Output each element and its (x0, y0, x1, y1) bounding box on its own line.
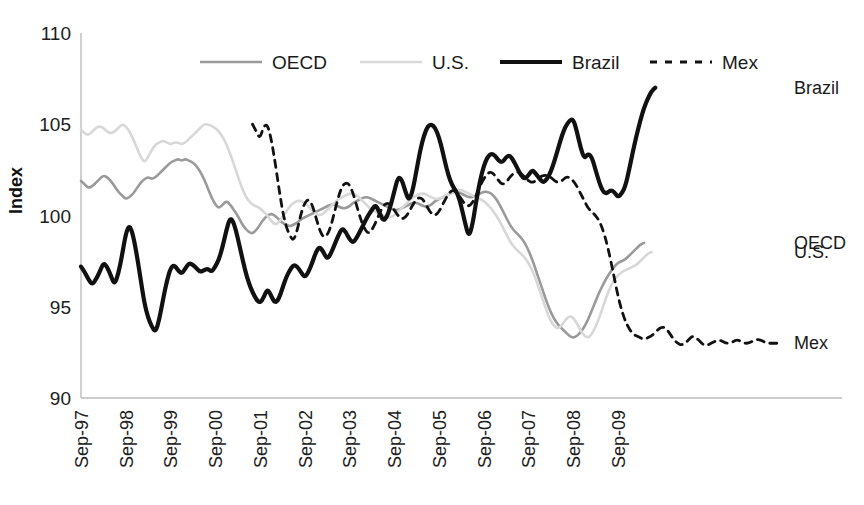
x-tick-label: Sep-06 (475, 410, 495, 468)
line-chart: 1101051009590 Sep-97Sep-98Sep-99Sep-00Se… (0, 0, 864, 505)
legend-label-oecd: OECD (272, 52, 327, 73)
series-line-oecd (81, 159, 644, 337)
x-tick-label: Sep-02 (296, 410, 316, 468)
x-tick-label: Sep-01 (251, 410, 271, 468)
end-label-us: U.S. (794, 242, 829, 262)
x-tick-label: Sep-99 (161, 410, 181, 468)
chart-legend: OECDU.S.BrazilMex (200, 52, 758, 73)
x-tick-label: Sep-07 (519, 410, 539, 468)
legend-label-brazil: Brazil (572, 52, 620, 73)
end-label-brazil: Brazil (794, 78, 839, 98)
series-line-brazil (81, 88, 655, 331)
y-tick-label: 110 (41, 23, 71, 44)
x-tick-label: Sep-97 (72, 410, 92, 468)
end-label-mex: Mex (794, 333, 828, 353)
y-tick-label: 100 (39, 206, 71, 227)
series-lines (81, 88, 782, 345)
y-tick-label: 90 (50, 388, 71, 409)
series-end-labels: OECDU.S.BrazilMex (794, 78, 846, 354)
x-tick-labels: Sep-97Sep-98Sep-99Sep-00Sep-01Sep-02Sep-… (72, 410, 629, 468)
x-tick-label: Sep-05 (430, 410, 450, 468)
x-tick-label: Sep-03 (340, 410, 360, 468)
x-tick-label: Sep-08 (564, 410, 584, 468)
x-tick-label: Sep-00 (206, 410, 226, 468)
y-tick-label: 105 (39, 114, 71, 135)
x-tick-label: Sep-09 (609, 410, 629, 468)
legend-label-mex: Mex (722, 52, 758, 73)
legend-label-us: U.S. (432, 52, 469, 73)
x-tick-label: Sep-04 (385, 410, 405, 468)
x-tick-label: Sep-98 (117, 410, 137, 468)
y-tick-labels: 1101051009590 (39, 23, 71, 409)
y-axis-title: Index (6, 167, 26, 214)
y-axis-title: Index (6, 167, 26, 214)
chart-figure: 1101051009590 Sep-97Sep-98Sep-99Sep-00Se… (0, 0, 864, 505)
y-tick-label: 95 (50, 297, 71, 318)
